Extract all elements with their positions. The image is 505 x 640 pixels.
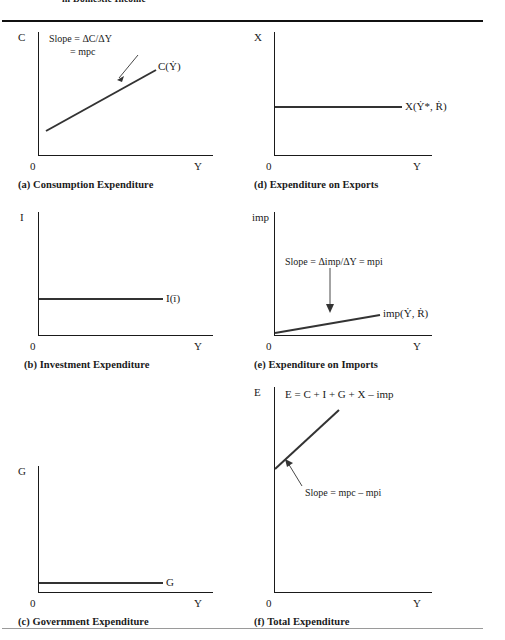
panel-f-annotation-arrowhead	[285, 459, 293, 467]
panel-e-annotation-arrowhead	[326, 304, 334, 313]
panel-c-government-expenditure: G Y 0 G (c) Government Expenditure	[16, 440, 216, 600]
panel-a-caption: (a) Consumption Expenditure	[18, 179, 153, 190]
panel-a-consumption-line	[46, 70, 156, 131]
panel-d-x-axis-label: Y	[413, 161, 421, 172]
panel-d-y-axis	[274, 32, 275, 156]
panel-f-curve-label: E = C + I + G + X – imp	[285, 388, 394, 401]
panel-a-slope-annotation-line1: Slope = ΔC/ΔY	[49, 32, 112, 45]
panel-c-x-axis	[38, 592, 213, 593]
panel-b-y-axis	[38, 212, 39, 336]
panel-a-annotation-arrowhead	[117, 76, 124, 82]
panel-d-x-axis	[274, 155, 432, 156]
panel-d-origin-label: 0	[266, 161, 272, 172]
panel-e-imports-line	[275, 315, 380, 333]
panel-a-consumption-expenditure: C Y 0 Slope = ΔC/ΔY = mpc C(Ẏ) (a) Consu…	[16, 30, 216, 180]
panel-d-expenditure-on-exports: X Y 0 X(Ẏ*, Ṙ) (d) Expenditure on Export…	[252, 30, 467, 180]
panel-b-origin-label: 0	[30, 341, 36, 352]
panel-c-x-axis-label: Y	[194, 598, 202, 609]
panel-e-caption: (e) Expenditure on Imports	[254, 359, 378, 370]
panel-b-curve-label: I(ī)	[166, 292, 180, 305]
figure-bottom-rule	[2, 628, 483, 629]
panel-f-slope-annotation: Slope = mpc – mpi	[305, 486, 381, 499]
panel-d-curve-label: X(Ẏ*, Ṙ)	[405, 100, 447, 113]
panel-d-caption: (d) Expenditure on Exports	[254, 179, 379, 190]
panel-c-origin-label: 0	[30, 598, 36, 609]
panel-e-slope-annotation: Slope = Δimp/ΔY = mpi	[285, 255, 383, 268]
panel-a-annotation-leader	[119, 55, 138, 78]
panel-f-annotation-leader	[288, 463, 302, 486]
panel-b-caption: (b) Investment Expenditure	[24, 359, 149, 370]
panel-f-total-expenditure-line	[275, 410, 339, 469]
panel-c-government-line	[39, 582, 163, 584]
panel-c-y-axis	[38, 466, 39, 593]
panel-a-plot-area	[16, 30, 216, 180]
panel-e-expenditure-on-imports: imp Y 0 Slope = Δimp/ΔY = mpi imp(Ẏ, Ṙ) …	[252, 210, 467, 360]
panel-a-slope-annotation-line2: = mpc	[70, 45, 95, 58]
panel-c-y-axis-label: G	[18, 466, 26, 477]
panel-e-curve-label: imp(Ẏ, Ṙ)	[383, 307, 428, 320]
panel-d-exports-line	[275, 106, 402, 108]
panel-e-plot-area	[252, 210, 467, 360]
panel-b-x-axis	[38, 335, 213, 336]
figure-top-rule	[2, 20, 483, 22]
panel-f-total-expenditure: E Y 0 E = C + I + G + X – imp Slope = mp…	[252, 385, 467, 600]
panel-c-caption: (c) Government Expenditure	[18, 616, 149, 627]
panel-c-curve-label: G	[166, 576, 174, 589]
panel-f-caption: (f) Total Expenditure	[254, 616, 349, 627]
panel-d-y-axis-label: X	[254, 32, 262, 43]
panel-a-curve-label: C(Ẏ)	[158, 60, 181, 73]
panel-b-investment-expenditure: I Y 0 I(ī) (b) Investment Expenditure	[16, 210, 216, 360]
figure-heading: in Domestic Income	[62, 0, 146, 6]
panel-b-x-axis-label: Y	[194, 341, 202, 352]
panel-b-y-axis-label: I	[20, 212, 24, 223]
panel-b-investment-line	[39, 298, 163, 300]
